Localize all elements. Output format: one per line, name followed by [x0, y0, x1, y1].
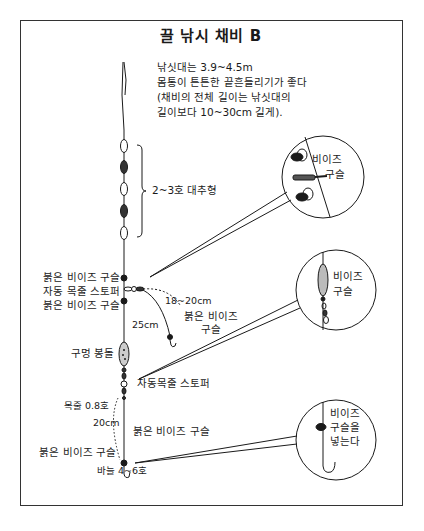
callout-2-label-1: 비이즈 [333, 270, 363, 283]
page-title: 끌 낚시 채비 B [160, 27, 262, 45]
callout-pointer-1 [150, 192, 291, 277]
auto-stopper-upper-label: 자동 목줄 스토퍼 [43, 285, 120, 298]
sinker-icon [119, 342, 129, 366]
auto-stopper-icon [124, 287, 144, 292]
length-20-label: 20cm [93, 417, 120, 428]
red-bead-lower-label: 붉은 비이즈 구슬 [43, 299, 120, 312]
branch-bead-icon [168, 335, 173, 340]
hook-size-label: 바늘 4~6호 [97, 465, 147, 476]
sinker-label: 구멍 봉돌 [71, 347, 114, 360]
branch-bead-label-2: 구슬 [176, 323, 246, 336]
rod-tip-icon [122, 62, 126, 140]
red-bead-hook-left-label: 붉은 비이즈 구슬 [39, 446, 116, 459]
length-25-label: 25cm [132, 319, 159, 330]
branch-hook-icon [170, 340, 176, 347]
auto-stopper-lower-label: 자동목줄 스토퍼 [137, 377, 210, 390]
callout-3-label-1: 비이즈 [330, 407, 360, 420]
callout-1-label-1: 비이즈 [312, 153, 342, 166]
callout-1-label-2: 구슬 [325, 168, 345, 181]
note-line-4: 길이보다 10~30cm 길게). [157, 105, 283, 120]
callout-2-label-2: 구슬 [333, 285, 353, 298]
leader-label: 목줄 0.8호 [64, 400, 109, 411]
branch-length-label: 18~20cm [165, 295, 212, 306]
branch-bead-label-1: 붉은 비이즈 [176, 310, 246, 323]
callout-3-label-3: 넣는다 [330, 435, 360, 448]
note-line-2: 몸통이 튼튼한 끝흔들리기가 좋다 [157, 75, 307, 90]
callout-pointer-3 [135, 436, 297, 463]
red-bead-hook-right-label: 붉은 비이즈 구슬 [133, 425, 210, 438]
red-bead-icon [121, 275, 127, 281]
note-line-1: 낚싯대는 3.9~4.5m [157, 60, 253, 75]
float-group-label: 2~3호 대추형 [152, 184, 218, 197]
brace-icon [137, 145, 146, 237]
note-line-3: (채비의 전체 길이는 낚싯대의 [157, 90, 291, 105]
red-bead-upper-label: 붉은 비이즈 구슬 [43, 271, 120, 284]
callout-3-label-2: 구슬을 [330, 421, 360, 434]
red-bead-icon [121, 298, 127, 304]
